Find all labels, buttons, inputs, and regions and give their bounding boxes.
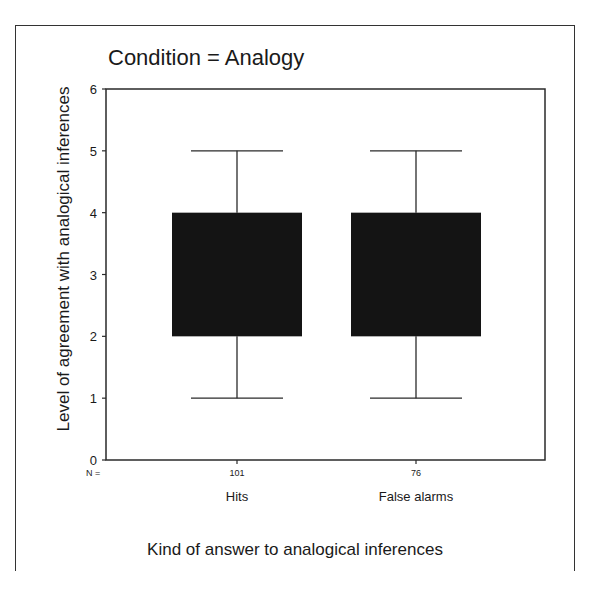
n-count-hits: 101 [229, 468, 244, 478]
y-axis: 0123456 [90, 82, 106, 468]
iqr-box [172, 213, 302, 337]
box-hits [172, 151, 302, 398]
plot-area: 0123456 [0, 0, 598, 593]
iqr-box [351, 213, 481, 337]
y-tick-label: 0 [90, 453, 97, 468]
x-axis-title: Kind of answer to analogical inferences [147, 540, 443, 560]
y-tick-label: 6 [90, 82, 97, 97]
boxes [172, 151, 481, 398]
n-label: N = [86, 468, 100, 478]
category-label-false-alarms: False alarms [379, 489, 453, 504]
y-tick-label: 2 [90, 329, 97, 344]
box-false-alarms [351, 151, 481, 398]
n-count-false-alarms: 76 [411, 468, 421, 478]
y-tick-label: 1 [90, 391, 97, 406]
category-label-hits: Hits [226, 489, 248, 504]
y-tick-label: 4 [90, 206, 97, 221]
y-tick-label: 3 [90, 268, 97, 283]
y-tick-label: 5 [90, 144, 97, 159]
